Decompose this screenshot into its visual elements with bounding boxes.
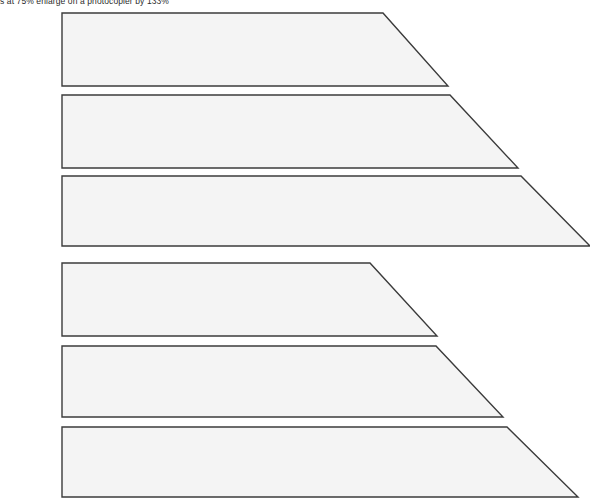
trapezoid-5[interactable] [62,346,503,417]
trapezoid-2[interactable] [62,95,518,168]
trapezoid-shape-layer [0,0,590,501]
trapezoid-6[interactable] [62,427,578,497]
trapezoid-3[interactable] [62,176,590,246]
trapezoid-4[interactable] [62,263,437,336]
trapezoid-1[interactable] [62,13,448,86]
page-canvas: s at 75% enlarge on a photocopier by 133… [0,0,590,501]
